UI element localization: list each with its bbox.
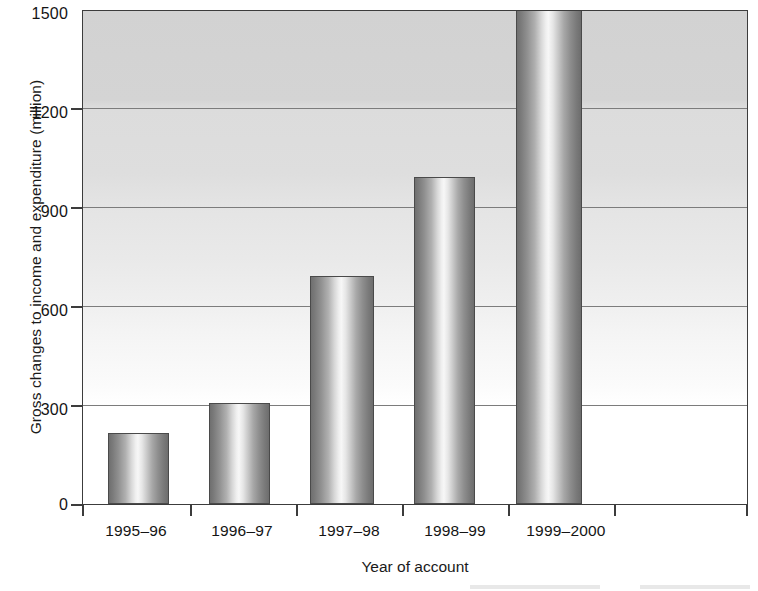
scan-artifact-left xyxy=(470,585,600,589)
y-tick-mark-0 xyxy=(71,504,82,506)
y-tick-label-900: 900 xyxy=(8,203,68,221)
y-tick-mark-1200 xyxy=(71,108,82,110)
x-tick-mark-4 xyxy=(508,505,510,516)
x-tick-mark-5 xyxy=(614,505,616,516)
x-tick-mark-2 xyxy=(296,505,298,516)
y-tick-label-1200: 1200 xyxy=(8,104,68,122)
bar-1999-2000 xyxy=(516,10,582,504)
bar-chart-figure: Gross changes to income and expenditure … xyxy=(0,0,758,591)
bar-1997-98 xyxy=(310,276,374,504)
y-tick-mark-900 xyxy=(71,207,82,209)
bar-1995-96 xyxy=(108,433,169,504)
bar-1996-97 xyxy=(209,403,270,504)
y-tick-label-1500: 1500 xyxy=(8,5,68,23)
x-tick-label-1999-2000: 1999–2000 xyxy=(486,522,646,540)
y-tick-label-600: 600 xyxy=(8,302,68,320)
y-tick-mark-600 xyxy=(71,306,82,308)
x-tick-mark-1 xyxy=(190,505,192,516)
scan-artifact-right xyxy=(640,585,750,589)
x-tick-mark-0 xyxy=(82,505,84,516)
x-tick-mark-3 xyxy=(402,505,404,516)
x-axis-title: Year of account xyxy=(82,558,748,576)
gridline-1200 xyxy=(83,108,747,109)
x-tick-mark-6 xyxy=(746,505,748,516)
y-tick-mark-300 xyxy=(71,405,82,407)
bar-1998-99 xyxy=(414,177,475,504)
y-tick-label-300: 300 xyxy=(8,401,68,419)
plot-area xyxy=(82,10,748,505)
y-axis-title: Gross changes to income and expenditure … xyxy=(27,7,45,507)
y-tick-label-0: 0 xyxy=(8,496,68,514)
